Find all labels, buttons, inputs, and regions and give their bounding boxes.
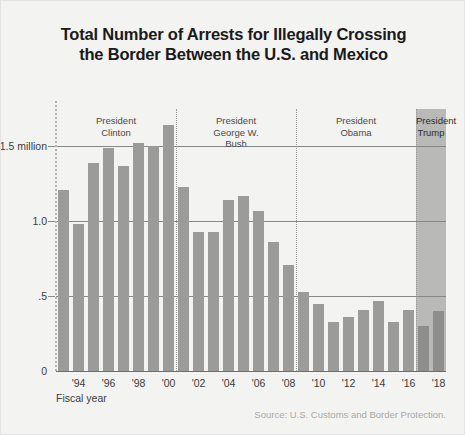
era-label-clinton: PresidentClinton (56, 115, 176, 138)
y-axis-spine (55, 101, 57, 371)
bar-1998 (133, 143, 144, 371)
bar-2003 (208, 232, 219, 371)
bar-2001 (178, 187, 189, 371)
x-tick-label-2018: '18 (432, 377, 446, 389)
bar-2007 (268, 242, 279, 371)
x-tick-label-2002: '02 (192, 377, 206, 389)
chart-title-line-1: Total Number of Arrests for Illegally Cr… (1, 24, 465, 44)
bar-2006 (253, 211, 264, 371)
bar-2008 (283, 265, 294, 371)
bar-1996 (103, 148, 114, 371)
era-divider-obama (296, 109, 297, 371)
bar-1999 (148, 146, 159, 371)
source-note: Source: U.S. Customs and Border Protecti… (254, 409, 446, 420)
gridline-1 (56, 221, 446, 222)
chart-title: Total Number of Arrests for Illegally Cr… (1, 24, 465, 64)
era-label-bush: PresidentGeorge W.Bush (176, 115, 296, 150)
bar-1995 (88, 163, 99, 371)
bar-2005 (238, 196, 249, 371)
era-label-obama-line-1: President (296, 115, 416, 127)
plot-area: 0.51.01.5 million '94'96'98'00'02'04'06'… (56, 109, 446, 371)
era-label-clinton-line-2: Clinton (56, 127, 176, 139)
bar-2016 (403, 310, 414, 371)
y-tick-label-3: 1.5 million (0, 140, 47, 152)
y-tick-dash-3 (48, 146, 55, 147)
x-tick-label-1996: '96 (102, 377, 116, 389)
era-divider-trump (416, 109, 417, 371)
y-tick-label-2: 1.0 (32, 215, 47, 227)
x-tick-label-2010: '10 (312, 377, 326, 389)
x-tick-label-1994: '94 (72, 377, 86, 389)
bar-1994 (73, 224, 84, 371)
x-tick-label-2016: '16 (402, 377, 416, 389)
era-label-trump-line-2: Trump (416, 127, 446, 139)
era-label-clinton-line-1: President (56, 115, 176, 127)
y-tick-label-0: 0 (41, 365, 47, 377)
bar-2004 (223, 200, 234, 371)
era-label-obama: PresidentObama (296, 115, 416, 138)
bar-1993 (58, 190, 69, 371)
era-label-obama-line-2: Obama (296, 127, 416, 139)
x-tick-label-2004: '04 (222, 377, 236, 389)
x-tick-label-2000: '00 (162, 377, 176, 389)
gridline-0_5 (56, 296, 446, 297)
bar-2013 (358, 310, 369, 371)
era-label-trump-line-1: President (416, 115, 446, 127)
bar-2002 (193, 232, 204, 371)
bar-2014 (373, 301, 384, 371)
chart-figure: Total Number of Arrests for Illegally Cr… (0, 0, 465, 435)
bar-1997 (118, 166, 129, 371)
chart-title-line-2: the Border Between the U.S. and Mexico (1, 44, 465, 64)
bar-2011 (328, 322, 339, 371)
x-tick-label-2008: '08 (282, 377, 296, 389)
bar-2009 (298, 292, 309, 371)
bar-2012 (343, 317, 354, 371)
y-tick-label-1: .5 (38, 290, 47, 302)
x-tick-label-2012: '12 (342, 377, 356, 389)
bar-2010 (313, 304, 324, 371)
bar-2000 (163, 125, 174, 371)
bar-2017 (418, 326, 429, 371)
era-label-bush-line-1: President (176, 115, 296, 127)
era-label-bush-line-2: George W. (176, 127, 296, 139)
bar-2015 (388, 322, 399, 371)
gridline-0 (56, 371, 446, 372)
y-tick-dash-1 (48, 296, 55, 297)
x-axis-title: Fiscal year (56, 392, 107, 404)
era-label-trump: PresidentTrump (416, 115, 446, 138)
era-label-bush-line-3: Bush (176, 138, 296, 150)
x-tick-label-1998: '98 (132, 377, 146, 389)
x-tick-label-2006: '06 (252, 377, 266, 389)
x-tick-label-2014: '14 (372, 377, 386, 389)
bar-2018 (433, 311, 444, 371)
y-tick-dash-2 (48, 221, 55, 222)
